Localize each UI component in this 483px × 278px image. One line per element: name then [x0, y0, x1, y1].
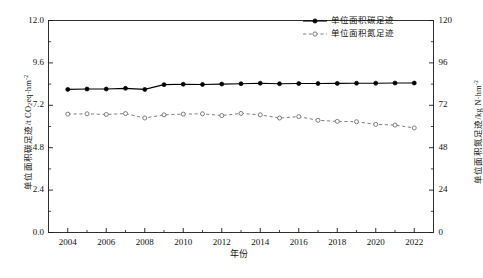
y-axis-right-tick-label: 120 — [439, 15, 469, 25]
series-marker-1 — [297, 82, 301, 86]
series-marker-1 — [181, 82, 185, 86]
series-marker-1 — [335, 81, 339, 85]
y-axis-right-tick-label: 96 — [439, 57, 469, 67]
x-axis-title: 年份 — [0, 247, 478, 260]
y-axis-left-tick-label: 0.0 — [0, 227, 44, 237]
series-marker-1 — [393, 81, 397, 85]
series-marker-1 — [355, 81, 359, 85]
legend-solid-line-icon — [302, 15, 328, 27]
y-axis-left-tick-label: 7.2 — [0, 99, 44, 109]
x-axis-tick-label: 2008 — [125, 237, 165, 247]
series-marker-2 — [393, 123, 397, 127]
series-marker-1 — [124, 86, 128, 90]
series-marker-1 — [316, 82, 320, 86]
series-marker-2 — [316, 118, 320, 122]
x-axis-tick-label: 2006 — [86, 237, 126, 247]
series-marker-1 — [258, 81, 262, 85]
legend-dashed-line-icon — [302, 28, 328, 40]
figure-caption — [0, 268, 478, 278]
series-marker-2 — [220, 114, 224, 118]
series-marker-1 — [220, 82, 224, 86]
y-axis-left-tick-label: 4.8 — [0, 142, 44, 152]
series-marker-2 — [143, 116, 147, 120]
series-marker-2 — [335, 119, 339, 123]
series-marker-2 — [162, 113, 166, 117]
y-axis-right-tick-label: 0 — [439, 227, 469, 237]
x-axis-tick-label: 2010 — [163, 237, 203, 247]
y-axis-left-tick-label: 12.0 — [0, 15, 44, 25]
series-marker-2 — [124, 112, 128, 116]
y-axis-right-tick-label: 24 — [439, 184, 469, 194]
series-marker-2 — [239, 111, 243, 115]
x-axis-tick-label: 2018 — [317, 237, 357, 247]
series-marker-2 — [374, 122, 378, 126]
y-axis-right-title-text: 单位面积氮足迹/kg N·hm — [473, 85, 483, 184]
legend-label: 单位面积氮足迹 — [331, 27, 394, 40]
series-marker-2 — [258, 113, 262, 117]
series-marker-1 — [374, 81, 378, 85]
series-marker-2 — [412, 126, 416, 130]
series-marker-2 — [181, 112, 185, 116]
series-marker-2 — [278, 116, 282, 120]
chart-legend: 单位面积碳足迹单位面积氮足迹 — [302, 14, 394, 40]
y-axis-right-tick-label: 72 — [439, 99, 469, 109]
y-axis-left-tick-label: 9.6 — [0, 57, 44, 67]
x-axis-tick-label: 2014 — [240, 237, 280, 247]
legend-item: 单位面积氮足迹 — [302, 27, 394, 40]
x-axis-tick-label: 2012 — [202, 237, 242, 247]
series-marker-1 — [412, 81, 416, 85]
series-marker-2 — [85, 112, 89, 116]
x-axis-tick-label: 2004 — [48, 237, 88, 247]
series-marker-2 — [201, 112, 205, 116]
series-marker-2 — [104, 112, 108, 116]
legend-label: 单位面积碳足迹 — [331, 14, 394, 27]
series-marker-1 — [143, 87, 147, 91]
x-axis-tick-label: 2020 — [356, 237, 396, 247]
y-axis-right-tick-label: 48 — [439, 142, 469, 152]
series-marker-2 — [66, 112, 70, 116]
series-marker-2 — [297, 115, 301, 119]
y-axis-right-title-sup: -2 — [473, 80, 479, 85]
series-marker-1 — [85, 87, 89, 91]
series-marker-1 — [201, 82, 205, 86]
x-axis-tick-label: 2022 — [394, 237, 434, 247]
x-axis-tick-label: 2016 — [279, 237, 319, 247]
series-marker-1 — [66, 87, 70, 91]
legend-item: 单位面积碳足迹 — [302, 14, 394, 27]
series-marker-1 — [104, 87, 108, 91]
series-marker-1 — [278, 82, 282, 86]
y-axis-right-title: 单位面积氮足迹/kg N·hm-2 — [471, 57, 483, 207]
series-marker-2 — [355, 120, 359, 124]
y-axis-left-title-sup: -2 — [23, 75, 29, 80]
series-marker-1 — [162, 83, 166, 87]
series-marker-1 — [239, 82, 243, 86]
y-axis-left-tick-label: 2.4 — [0, 184, 44, 194]
